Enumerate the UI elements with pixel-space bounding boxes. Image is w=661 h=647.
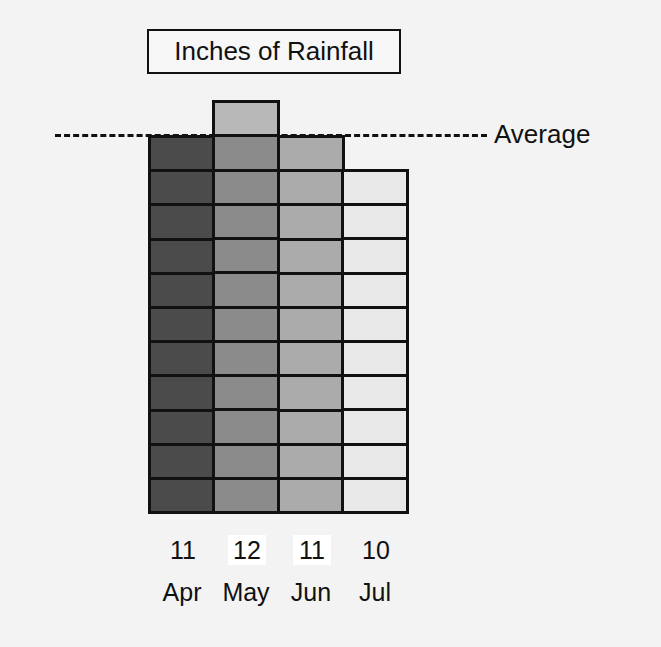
bar-cell	[280, 480, 342, 511]
value-label: 11	[293, 535, 331, 565]
chart-title-text: Inches of Rainfall	[174, 36, 373, 67]
bar-cell	[151, 480, 213, 511]
bar-cell	[280, 241, 342, 275]
bar-cell	[344, 275, 406, 309]
bar-cell	[151, 446, 213, 480]
bar-cell	[215, 309, 277, 343]
bar-cell	[151, 377, 213, 411]
bar-cell	[215, 274, 277, 308]
bar-cell	[344, 377, 406, 411]
bar-cell	[280, 138, 342, 172]
bar-cell	[280, 343, 342, 377]
category-label: Jul	[336, 577, 414, 607]
bar-cell	[151, 412, 213, 446]
bar-cell	[280, 206, 342, 240]
bar-cell	[215, 206, 277, 240]
bar-may	[212, 100, 280, 514]
bar-cell	[215, 377, 277, 411]
bar-cell	[215, 137, 277, 171]
bar-cell	[344, 343, 406, 377]
bar-cell	[151, 309, 213, 343]
bar-cell	[280, 172, 342, 206]
bar-jun	[277, 135, 345, 514]
bar-cell	[151, 275, 213, 309]
bar-cell	[215, 172, 277, 206]
bar-cell	[151, 241, 213, 275]
bar-cell	[215, 446, 277, 480]
bar-jul	[341, 169, 409, 514]
average-line	[55, 134, 487, 137]
bar-cell	[344, 172, 406, 206]
bar-cell	[344, 411, 406, 445]
bar-cell	[151, 206, 213, 240]
bar-cell	[280, 446, 342, 480]
bar-cell	[215, 343, 277, 377]
bar-cell	[344, 206, 406, 240]
bar-cell	[344, 309, 406, 343]
bar-cell	[280, 412, 342, 446]
average-label: Average	[494, 119, 590, 149]
bar-cell	[151, 343, 213, 377]
value-label: 12	[228, 535, 266, 565]
bar-cell	[151, 172, 213, 206]
bar-cell	[280, 377, 342, 411]
bar-cell	[344, 446, 406, 480]
bar-apr	[148, 135, 216, 514]
bar-cell	[280, 309, 342, 343]
bar-cell	[215, 411, 277, 445]
chart-title: Inches of Rainfall	[147, 29, 401, 74]
bar-cell	[344, 240, 406, 274]
bar-cell	[215, 480, 277, 511]
bar-cell	[280, 275, 342, 309]
bar-cell	[151, 138, 213, 172]
bar-cell	[215, 240, 277, 274]
value-label: 11	[164, 535, 202, 565]
bar-cell	[344, 480, 406, 511]
value-label: 10	[357, 535, 395, 565]
bar-cell	[215, 103, 277, 137]
